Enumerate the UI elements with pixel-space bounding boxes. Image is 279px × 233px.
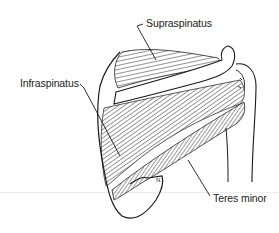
label-teres-minor: Teres minor (213, 192, 267, 204)
label-supraspinatus: Supraspinatus (146, 17, 212, 29)
humerus-shaft-line (226, 128, 228, 182)
label-infraspinatus: Infraspinatus (20, 77, 79, 89)
teres-minor-leader-line (188, 160, 210, 196)
anatomy-diagram: Supraspinatus Infraspinatus Teres minor … (0, 0, 279, 233)
marker-text: N. (156, 177, 162, 183)
